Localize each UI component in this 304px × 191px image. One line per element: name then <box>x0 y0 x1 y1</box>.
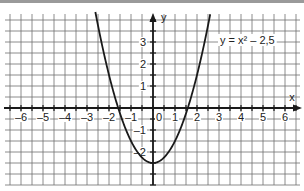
y-tick-label: –1 <box>134 124 146 136</box>
y-axis-arrow-icon <box>150 13 157 22</box>
y-tick-label: 3 <box>140 36 146 48</box>
x-tick-label: 2 <box>194 111 200 123</box>
x-axis-arrow-icon <box>293 105 302 112</box>
x-tick-label: 6 <box>282 111 288 123</box>
x-tick-label: –2 <box>103 111 115 123</box>
y-tick-label: 1 <box>140 80 146 92</box>
y-tick-label: 2 <box>140 58 146 70</box>
x-tick-label: 1 <box>172 111 178 123</box>
x-tick-label: –3 <box>81 111 93 123</box>
x-axis-label: x <box>289 91 295 103</box>
y-axis-label: y <box>161 11 167 23</box>
x-tick-label: 5 <box>260 111 266 123</box>
function-plot: –6–5–4–3–2–10123456321–1–2 x y y = x² – … <box>0 0 304 191</box>
x-tick-label: –6 <box>15 111 27 123</box>
x-tick-label: 0 <box>156 111 162 123</box>
equation-label: y = x² – 2,5 <box>220 34 275 46</box>
x-tick-label: 3 <box>216 111 222 123</box>
x-tick-label: –1 <box>125 111 137 123</box>
x-tick-label: 4 <box>238 111 244 123</box>
x-tick-label: –5 <box>37 111 49 123</box>
x-tick-label: –4 <box>59 111 71 123</box>
